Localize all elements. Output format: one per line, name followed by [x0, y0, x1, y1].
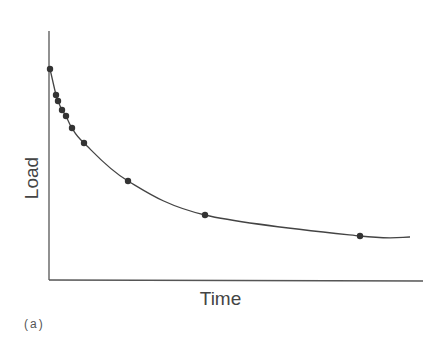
data-point	[55, 98, 61, 104]
data-point	[59, 107, 65, 113]
data-point	[63, 113, 69, 119]
y-axis-label: Load	[21, 157, 43, 199]
x-axis	[49, 280, 423, 281]
data-point	[47, 66, 53, 72]
panel-label: (a)	[24, 317, 45, 331]
data-point	[69, 125, 75, 131]
x-axis-label: Time	[0, 288, 441, 310]
data-point	[202, 212, 208, 218]
data-point	[357, 233, 363, 239]
data-point	[81, 140, 87, 146]
data-point	[53, 92, 59, 98]
data-point	[125, 178, 131, 184]
decay-curve	[50, 69, 410, 238]
